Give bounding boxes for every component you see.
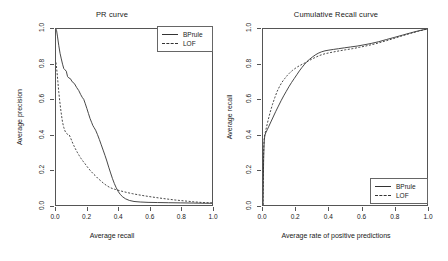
x-tick-label: 0.0 [43,213,67,220]
legend-pr: BPrule LOF [157,26,213,52]
x-tick [428,207,429,211]
y-tick [50,99,54,100]
x-tick [213,207,214,211]
legend-label-lof: LOF [183,39,196,48]
series-bprule [56,29,212,203]
y-tick-label: 0.2 [245,158,252,182]
x-axis-label-cr: Average rate of positive predictions [224,232,448,239]
legend-item-lof: LOF [162,39,207,48]
y-tick-label: 0.4 [38,122,45,146]
x-tick-label: 0.2 [75,213,99,220]
x-tick [295,207,296,211]
x-tick-label: 0.6 [138,213,162,220]
x-tick [118,207,119,211]
chart-title-cr: Cumulative Recall curve [224,10,448,19]
legend-line-solid-icon [375,186,391,187]
x-tick [362,207,363,211]
y-tick [257,99,261,100]
legend-line-solid-icon [162,34,178,35]
x-tick [181,207,182,211]
panel-pr-curve: PR curve 0.00.20.40.60.81.0 0.00.20.40.6… [0,0,224,261]
y-axis-label-pr: Average precision [16,89,23,145]
x-tick-label: 0.8 [383,213,407,220]
x-tick-label: 0.0 [250,213,274,220]
y-tick [50,28,54,29]
y-tick-label: 0.4 [245,122,252,146]
legend-label-bprule: BPrule [396,182,416,191]
x-tick [395,207,396,211]
legend-item-bprule: BPrule [162,30,207,39]
x-tick-label: 0.4 [106,213,130,220]
y-tick-label: 0.2 [38,158,45,182]
legend-cr: BPrule LOF [370,178,428,204]
legend-line-dashed-icon [162,43,178,44]
y-tick [257,135,261,136]
legend-label-lof: LOF [396,191,409,200]
y-tick [257,64,261,65]
legend-item-lof: LOF [375,191,422,200]
y-tick [257,206,261,207]
x-tick [87,207,88,211]
legend-label-bprule: BPrule [183,30,203,39]
figure-two-panel: PR curve 0.00.20.40.60.81.0 0.00.20.40.6… [0,0,448,261]
x-tick [150,207,151,211]
panel-cumulative-recall-curve: Cumulative Recall curve 0.00.20.40.60.81… [224,0,448,261]
y-tick [257,170,261,171]
plot-area-pr [55,28,213,206]
x-tick [55,207,56,211]
pr-curve-svg [56,29,212,205]
x-tick-label: 0.2 [283,213,307,220]
x-tick-label: 0.6 [350,213,374,220]
y-tick-label: 1.0 [245,16,252,40]
x-tick-label: 0.4 [316,213,340,220]
y-axis-label-cr: Average recall [226,95,233,140]
legend-item-bprule: BPrule [375,182,422,191]
y-tick-label: 1.0 [38,16,45,40]
chart-title-pr: PR curve [0,10,224,19]
y-tick-label: 0.6 [245,87,252,111]
y-tick [50,206,54,207]
x-tick [262,207,263,211]
x-tick [328,207,329,211]
y-tick-label: 0.6 [38,87,45,111]
x-tick-label: 1.0 [201,213,225,220]
y-tick [257,28,261,29]
series-lof [56,62,212,202]
y-tick-label: 0.8 [38,51,45,75]
y-tick [50,135,54,136]
x-tick-label: 1.0 [416,213,440,220]
legend-line-dashed-icon [375,195,391,196]
x-axis-label-pr: Average recall [0,232,224,239]
y-tick-label: 0.8 [245,51,252,75]
y-tick [50,170,54,171]
curves-pr [56,29,212,205]
y-tick [50,64,54,65]
x-tick-label: 0.8 [169,213,193,220]
